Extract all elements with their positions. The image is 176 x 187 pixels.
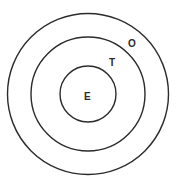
middle-ring-label: T — [109, 57, 115, 68]
concentric-circles-diagram: O T E — [0, 0, 176, 187]
outer-ring-label: O — [128, 38, 136, 49]
inner-ring-label: E — [84, 91, 91, 102]
